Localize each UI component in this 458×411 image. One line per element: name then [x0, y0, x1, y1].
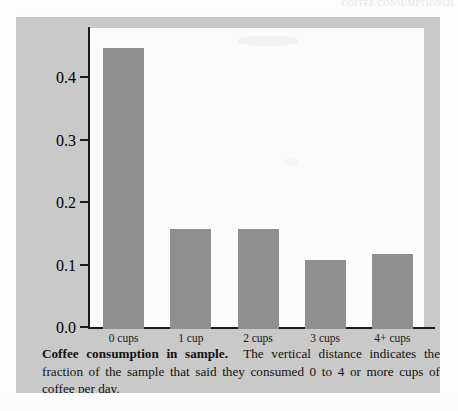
bar	[372, 254, 413, 329]
x-axis-tick-label: 4+ cups	[359, 332, 426, 344]
page-bottom-margin	[0, 393, 458, 411]
figure-caption: Coffee consumption in sample. The vertic…	[42, 345, 440, 398]
x-axis-tick-label: 1 cup	[157, 332, 224, 344]
caption-title-suffix: .	[225, 346, 228, 361]
bar	[238, 229, 279, 329]
bar	[305, 260, 346, 329]
page-gutter-right	[440, 13, 458, 411]
caption-title: Coffee consumption in sample	[42, 346, 225, 361]
x-axis-tick-label: 3 cups	[292, 332, 359, 344]
bars-layer	[0, 0, 458, 329]
x-axis-tick-label: 0 cups	[90, 332, 157, 344]
bar	[103, 48, 144, 329]
figure-page: COFFEE CONSUMPTION 121 0.00.10.20.30.4 0…	[0, 0, 458, 411]
bar	[170, 229, 211, 329]
x-axis-tick-label: 2 cups	[224, 332, 291, 344]
page-gutter-left	[0, 13, 16, 411]
